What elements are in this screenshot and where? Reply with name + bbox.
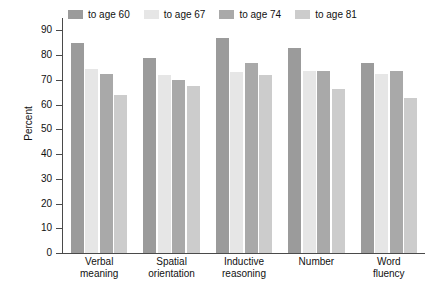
y-axis-tick-mark	[56, 129, 63, 130]
bar	[172, 80, 185, 253]
y-axis-tick-mark	[56, 80, 63, 81]
y-axis-tick-mark	[56, 253, 63, 254]
y-axis-tick-label: 80	[28, 50, 52, 60]
x-axis-category-label: Verbalmeaning	[63, 256, 135, 280]
category-label-line: orientation	[135, 268, 207, 280]
y-axis-tick-label-wrap: 90	[24, 25, 52, 35]
y-axis-tick-label: 70	[28, 75, 52, 85]
y-axis-tick-mark	[56, 204, 63, 205]
category-label-line: Inductive	[208, 256, 280, 268]
y-axis-tick-mark	[56, 55, 63, 56]
bar-group	[353, 18, 425, 253]
bar	[404, 98, 417, 253]
bar	[390, 71, 403, 253]
y-axis-tick-mark	[56, 105, 63, 106]
bar-chart: to age 60to age 67to age 74to age 81 Per…	[0, 0, 434, 286]
y-axis-tick-label-wrap: 30	[24, 174, 52, 184]
y-axis-tick-label: 20	[28, 199, 52, 209]
category-label-line: Verbal	[63, 256, 135, 268]
bar	[158, 75, 171, 253]
y-axis-tick-label-wrap: 70	[24, 75, 52, 85]
y-axis-tick-label: 90	[28, 25, 52, 35]
category-label-line: meaning	[63, 268, 135, 280]
y-axis-tick-label: 0	[28, 248, 52, 258]
bar	[71, 43, 84, 253]
bar	[100, 74, 113, 253]
category-label-line: reasoning	[208, 268, 280, 280]
y-axis-tick-label: 50	[28, 124, 52, 134]
y-axis-tick-label-wrap: 60	[24, 100, 52, 110]
bar	[375, 74, 388, 253]
bar-group	[208, 18, 280, 253]
bar-group	[135, 18, 207, 253]
bar	[143, 58, 156, 253]
bar	[288, 48, 301, 253]
category-label-line: fluency	[353, 268, 425, 280]
y-axis-tick-label-wrap: 50	[24, 124, 52, 134]
x-axis-category-label: Number	[280, 256, 352, 268]
category-label-line: Spatial	[135, 256, 207, 268]
y-axis-tick-label: 30	[28, 174, 52, 184]
y-axis-tick-label-wrap: 40	[24, 149, 52, 159]
plot-area	[63, 18, 425, 253]
bar	[187, 86, 200, 253]
bar-group	[280, 18, 352, 253]
bar	[230, 72, 243, 253]
y-axis-tick-label-wrap: 0	[24, 248, 52, 258]
x-axis-category-label: Spatialorientation	[135, 256, 207, 280]
bar	[303, 71, 316, 253]
y-axis-tick-label: 40	[28, 149, 52, 159]
bar	[317, 71, 330, 253]
x-axis-line	[62, 253, 425, 254]
x-axis-category-label: Inductivereasoning	[208, 256, 280, 280]
bar-group	[63, 18, 135, 253]
y-axis-tick-label-wrap: 20	[24, 199, 52, 209]
bar	[332, 89, 345, 254]
bar	[216, 38, 229, 253]
y-axis-tick-mark	[56, 228, 63, 229]
category-label-line: Number	[280, 256, 352, 268]
category-label-line: Word	[353, 256, 425, 268]
y-axis-tick-mark	[56, 30, 63, 31]
y-axis-tick-label-wrap: 80	[24, 50, 52, 60]
bar	[85, 69, 98, 253]
y-axis-tick-mark	[56, 154, 63, 155]
bar	[259, 75, 272, 253]
y-axis-tick-label-wrap: 10	[24, 223, 52, 233]
y-axis-tick-label: 10	[28, 223, 52, 233]
y-axis-tick-mark	[56, 179, 63, 180]
bar	[245, 63, 258, 253]
bar	[114, 95, 127, 253]
y-axis-tick-label: 60	[28, 100, 52, 110]
bar	[361, 63, 374, 253]
x-axis-category-label: Wordfluency	[353, 256, 425, 280]
